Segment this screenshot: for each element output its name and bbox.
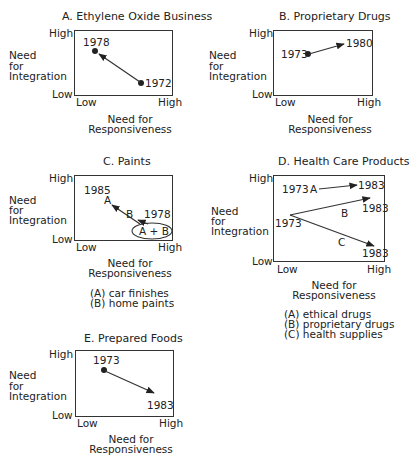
point-label-1983: 1983 (147, 400, 174, 411)
point-label-1973: 1973 (93, 355, 120, 366)
